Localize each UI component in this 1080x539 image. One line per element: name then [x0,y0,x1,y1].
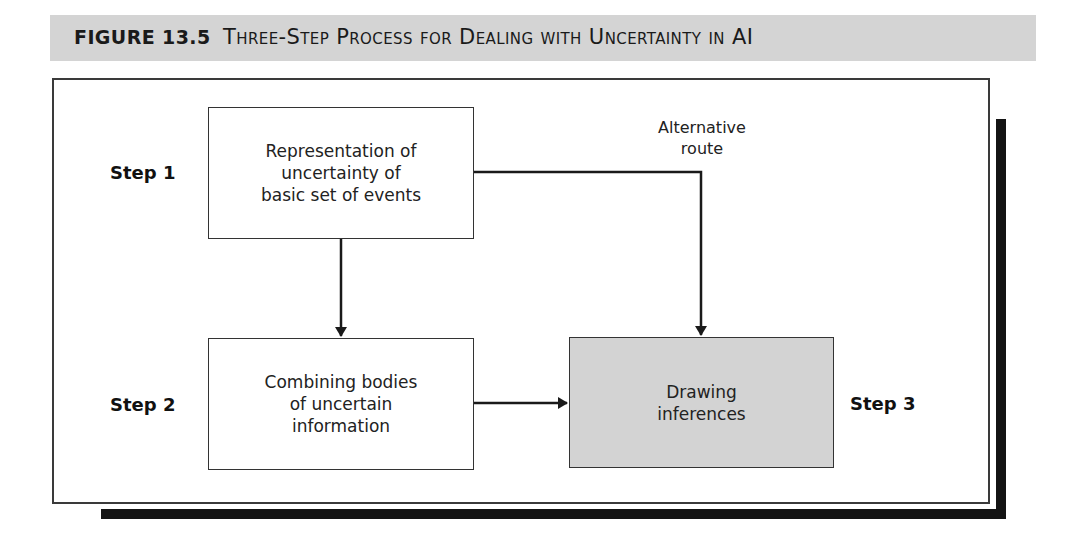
step3-box-line: Drawing [657,381,745,403]
step2-label: Step 2 [110,394,175,415]
alternative-route-label: Alternative route [640,117,764,159]
connector-layer [0,0,1080,539]
step1-box: Representation of uncertainty of basic s… [208,107,474,239]
alternative-route-line: Alternative [640,117,764,138]
step3-box-line: inferences [657,403,745,425]
step1-label: Step 1 [110,162,175,183]
step1-box-line: Representation of [261,140,421,162]
arrow-alternative-route [473,172,701,335]
step2-box-line: information [265,415,418,437]
alternative-route-line: route [640,138,764,159]
step3-box: Drawing inferences [569,337,834,468]
step2-box-line: of uncertain [265,393,418,415]
step2-box-line: Combining bodies [265,371,418,393]
step1-box-line: uncertainty of [261,162,421,184]
step1-box-line: basic set of events [261,184,421,206]
step3-label: Step 3 [850,393,915,414]
step2-box: Combining bodies of uncertain informatio… [208,338,474,470]
